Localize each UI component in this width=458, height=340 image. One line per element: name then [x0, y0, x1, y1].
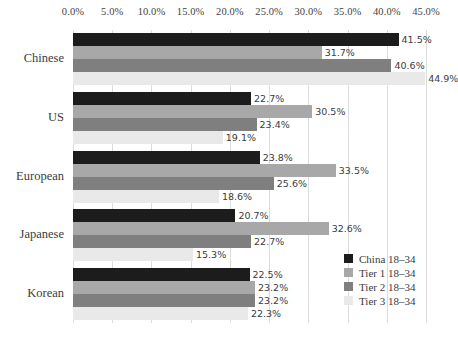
x-tick-label: 15.0%	[177, 6, 205, 17]
bar[interactable]	[73, 131, 223, 144]
bar-value-label: 23.2%	[255, 281, 288, 294]
bar-value-label: 22.5%	[250, 268, 283, 281]
bar[interactable]	[73, 46, 322, 59]
bar-value-label: 22.7%	[251, 92, 284, 105]
category-group: 22.7%30.5%23.4%19.1%	[73, 92, 426, 144]
bar-value-label: 44.9%	[425, 72, 458, 85]
legend-item[interactable]: Tier 3 18–34	[344, 294, 444, 307]
bar-value-label: 22.7%	[251, 235, 284, 248]
legend-label: Tier 1 18–34	[359, 267, 415, 279]
bar-row: 22.3%	[73, 307, 426, 320]
bar[interactable]	[73, 268, 250, 281]
bar[interactable]	[73, 281, 255, 294]
bar[interactable]	[73, 92, 251, 105]
bar-value-label: 33.5%	[336, 164, 369, 177]
bar-value-label: 25.6%	[274, 177, 307, 190]
bar-value-label: 23.2%	[255, 294, 288, 307]
bar-row: 30.5%	[73, 105, 426, 118]
bar-value-label: 41.5%	[399, 33, 432, 46]
bar-row: 22.7%	[73, 235, 426, 248]
bar-row: 19.1%	[73, 131, 426, 144]
bar-row: 32.6%	[73, 222, 426, 235]
bar[interactable]	[73, 59, 391, 72]
bar-row: 20.7%	[73, 209, 426, 222]
x-tick-label: 25.0%	[255, 6, 283, 17]
bar[interactable]	[73, 151, 260, 164]
bar-row: 41.5%	[73, 33, 426, 46]
legend-label: China 18–34	[359, 253, 416, 265]
x-tick-label: 40.0%	[373, 6, 401, 17]
bar[interactable]	[73, 235, 251, 248]
bar-row: 25.6%	[73, 177, 426, 190]
bar-value-label: 19.1%	[223, 131, 256, 144]
legend-item[interactable]: Tier 1 18–34	[344, 266, 444, 279]
bar-value-label: 23.8%	[260, 151, 293, 164]
x-tick-label: 45.0%	[412, 6, 440, 17]
x-tick-label: 0.0%	[62, 6, 84, 17]
bar[interactable]	[73, 164, 336, 177]
bar-row: 40.6%	[73, 59, 426, 72]
bar[interactable]	[73, 105, 312, 118]
bar-value-label: 31.7%	[322, 46, 355, 59]
category-label: Chinese	[0, 51, 64, 66]
bar[interactable]	[73, 294, 255, 307]
bar-row: 44.9%	[73, 72, 426, 85]
legend-item[interactable]: China 18–34	[344, 252, 444, 265]
legend-swatch-icon	[344, 268, 353, 277]
chart-legend: China 18–34Tier 1 18–34Tier 2 18–34Tier …	[344, 252, 444, 308]
legend-swatch-icon	[344, 282, 353, 291]
bar-row: 31.7%	[73, 46, 426, 59]
bar-value-label: 18.6%	[219, 190, 252, 203]
x-tick-label: 5.0%	[101, 6, 123, 17]
bar-row: 33.5%	[73, 164, 426, 177]
legend-swatch-icon	[344, 296, 353, 305]
category-group: 41.5%31.7%40.6%44.9%	[73, 33, 426, 85]
legend-label: Tier 2 18–34	[359, 281, 415, 293]
category-label: Korean	[0, 286, 64, 301]
bar-value-label: 22.3%	[248, 307, 281, 320]
x-axis-tick-labels: 0.0%5.0%10.0%15.0%20.0%25.0%30.0%35.0%40…	[0, 6, 445, 24]
bar-row: 22.7%	[73, 92, 426, 105]
bar[interactable]	[73, 33, 399, 46]
bar-value-label: 20.7%	[235, 209, 268, 222]
bar[interactable]	[73, 222, 329, 235]
bar-value-label: 40.6%	[391, 59, 424, 72]
category-label: Japanese	[0, 227, 64, 242]
legend-label: Tier 3 18–34	[359, 295, 415, 307]
legend-item[interactable]: Tier 2 18–34	[344, 280, 444, 293]
bar[interactable]	[73, 177, 274, 190]
bar-value-label: 32.6%	[329, 222, 362, 235]
bar-value-label: 15.3%	[193, 248, 226, 261]
bar[interactable]	[73, 248, 193, 261]
legend-swatch-icon	[344, 254, 353, 263]
bar[interactable]	[73, 118, 257, 131]
bar-value-label: 23.4%	[257, 118, 290, 131]
x-tick-label: 20.0%	[216, 6, 244, 17]
bar[interactable]	[73, 307, 248, 320]
bar-row: 23.8%	[73, 151, 426, 164]
bar-row: 23.4%	[73, 118, 426, 131]
bar[interactable]	[73, 190, 219, 203]
category-label: European	[0, 169, 64, 184]
bar-value-label: 30.5%	[312, 105, 345, 118]
x-tick-label: 10.0%	[138, 6, 166, 17]
x-tick-label: 35.0%	[334, 6, 362, 17]
bar[interactable]	[73, 209, 235, 222]
category-label: US	[0, 110, 64, 125]
bar-row: 18.6%	[73, 190, 426, 203]
x-tick-label: 30.0%	[295, 6, 323, 17]
category-group: 23.8%33.5%25.6%18.6%	[73, 151, 426, 203]
bar[interactable]	[73, 72, 425, 85]
